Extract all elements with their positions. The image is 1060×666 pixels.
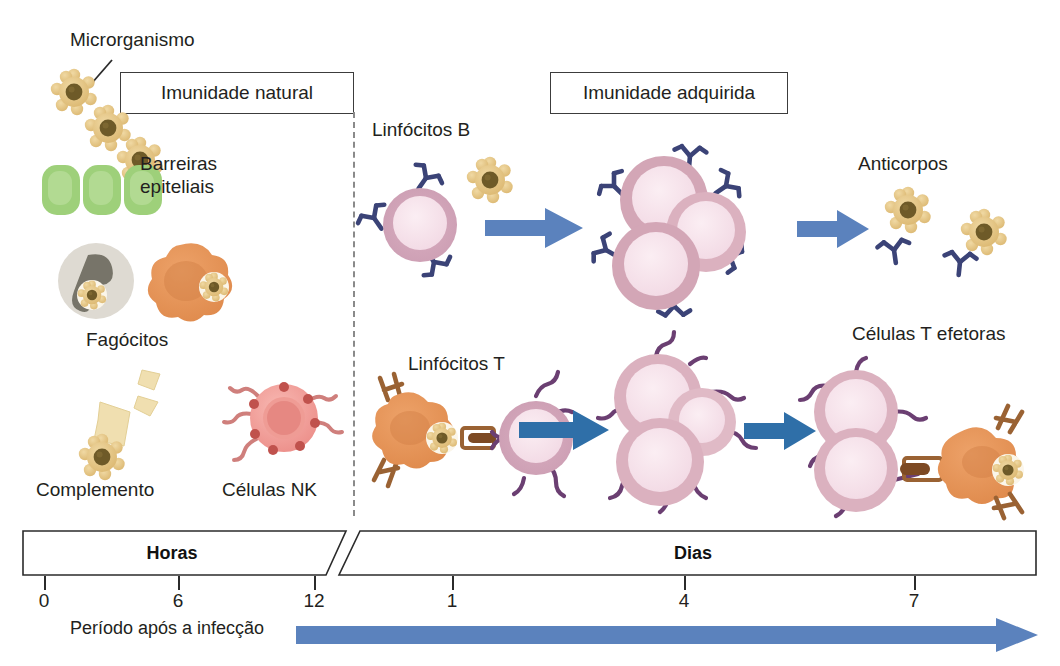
microbe-icon (85, 105, 131, 151)
label-barriers: Barreiras epiteliais (140, 152, 217, 198)
tick-days-1 (452, 576, 454, 590)
complement-icon (72, 362, 192, 482)
tick-days-4 (684, 576, 686, 590)
pointer-line-microorganism (92, 60, 112, 83)
tick-hours-6 (178, 576, 180, 590)
microbe-icon (961, 209, 1007, 255)
phagocytes-icons (52, 233, 232, 333)
timeline-hours-label: Horas (22, 530, 322, 576)
label-complement: Complemento (36, 478, 154, 501)
ticklabel-hours-0: 0 (39, 590, 50, 612)
arrow-b-activation (483, 206, 587, 250)
label-b-lymphocytes: Linfócitos B (372, 118, 470, 141)
label-barriers-line2: epiteliais (140, 175, 217, 198)
tick-hours-0 (44, 576, 46, 590)
label-nk-cells: Células NK (222, 478, 317, 501)
ticklabel-hours-12: 12 (303, 590, 324, 612)
antibody-icon (943, 251, 977, 276)
ticklabel-days-4: 4 (679, 590, 690, 612)
b-cell-clone-cluster (578, 138, 798, 338)
label-antibodies: Anticorpos (858, 152, 948, 175)
neutrophil-icon (58, 243, 134, 319)
tick-hours-12 (314, 576, 316, 590)
time-direction-arrow (296, 618, 1040, 652)
tick-days-7 (914, 576, 916, 590)
nk-cell-icon (228, 366, 354, 478)
ticklabel-days-1: 1 (447, 590, 458, 612)
label-phagocytes: Fagócitos (86, 328, 168, 351)
macrophage-icon (148, 243, 232, 321)
microbe-icon (885, 187, 931, 233)
axis-caption: Período após a infecção (70, 618, 264, 640)
ticklabel-hours-6: 6 (173, 590, 184, 612)
b-cell-nucleus (393, 196, 447, 250)
immunity-timeline-figure: Imunidade natural Imunidade adquirida Mi… (0, 0, 1060, 666)
secreted-antibodies-group (850, 182, 1040, 302)
antigen-presenting-cell (372, 392, 458, 468)
ticklabel-days-7: 7 (909, 590, 920, 612)
effector-t-cell-group (800, 350, 1060, 520)
label-effector-t-cells: Células T efetoras (852, 322, 1006, 345)
header-label-adaptive: Imunidade adquirida (583, 82, 755, 104)
antibody-icon (877, 239, 912, 265)
microbe-icon (467, 157, 513, 203)
header-box-adaptive: Imunidade adquirida (550, 72, 788, 114)
target-cell (938, 406, 1024, 518)
label-microorganism: Microrganismo (70, 28, 195, 51)
timeline-days-label: Dias (350, 530, 1036, 576)
microbe-icon (51, 69, 97, 115)
label-barriers-line1: Barreiras (140, 152, 217, 175)
